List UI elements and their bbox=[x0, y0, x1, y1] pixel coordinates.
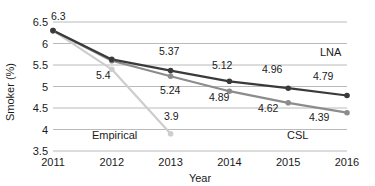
data-point-marker-lna bbox=[227, 79, 233, 85]
data-point-label: 6.3 bbox=[51, 10, 66, 22]
x-tick-label: 2011 bbox=[41, 156, 65, 168]
series-lines-group bbox=[53, 31, 347, 134]
data-point-marker-lna bbox=[285, 85, 291, 91]
data-point-marker-empirical bbox=[168, 131, 174, 137]
chart-plot-area: 3.544.555.566.5 201120122013201420152016… bbox=[0, 0, 375, 186]
data-point-label: 5.12 bbox=[212, 59, 233, 71]
x-tick-label: 2013 bbox=[158, 156, 182, 168]
data-point-marker-lna bbox=[168, 68, 174, 74]
data-point-marker-lna bbox=[344, 93, 350, 99]
data-point-marker-csl bbox=[285, 100, 291, 106]
series-label-empirical: Empirical bbox=[92, 129, 137, 141]
x-tick-label: 2014 bbox=[217, 156, 241, 168]
x-tick-label: 2015 bbox=[276, 156, 300, 168]
x-tick-label: 2016 bbox=[335, 156, 359, 168]
data-point-marker-csl bbox=[168, 73, 174, 79]
data-point-label: 4.39 bbox=[309, 111, 330, 123]
series-line-empirical bbox=[53, 31, 171, 134]
series-line-lna bbox=[53, 31, 347, 96]
data-point-label: 4.79 bbox=[313, 70, 334, 82]
data-point-label: 5.37 bbox=[159, 45, 180, 57]
data-point-marker-lna bbox=[109, 57, 115, 63]
series-markers-group bbox=[50, 28, 350, 137]
data-point-label: 5.4 bbox=[96, 69, 111, 81]
data-point-label: 5.24 bbox=[160, 84, 181, 96]
y-tick-label: 6.5 bbox=[33, 16, 48, 28]
y-tick-label: 6 bbox=[42, 38, 48, 50]
smoker-percent-line-chart: 3.544.555.566.5 201120122013201420152016… bbox=[0, 0, 375, 186]
y-tick-label: 5.5 bbox=[33, 59, 48, 71]
y-tick-label: 4.5 bbox=[33, 102, 48, 114]
data-point-label: 3.9 bbox=[164, 110, 179, 122]
y-axis-tick-labels: 3.544.555.566.5 bbox=[33, 16, 48, 157]
y-tick-label: 4 bbox=[42, 124, 48, 136]
data-point-label: 4.89 bbox=[209, 91, 230, 103]
x-axis-title: Year bbox=[189, 172, 212, 184]
data-point-marker-lna bbox=[50, 28, 56, 34]
y-tick-label: 5 bbox=[42, 81, 48, 93]
series-label-csl: CSL bbox=[287, 129, 308, 141]
x-axis-tick-labels: 201120122013201420152016 bbox=[41, 156, 359, 168]
series-label-lna: LNA bbox=[320, 46, 342, 58]
y-axis-title: Smoker (%) bbox=[4, 63, 16, 121]
data-point-labels-group: 6.35.45.375.243.95.124.894.964.624.794.3… bbox=[51, 10, 334, 123]
data-point-label: 4.96 bbox=[262, 63, 283, 75]
x-tick-label: 2012 bbox=[100, 156, 124, 168]
data-point-marker-csl bbox=[344, 110, 350, 116]
data-point-label: 4.62 bbox=[258, 102, 279, 114]
